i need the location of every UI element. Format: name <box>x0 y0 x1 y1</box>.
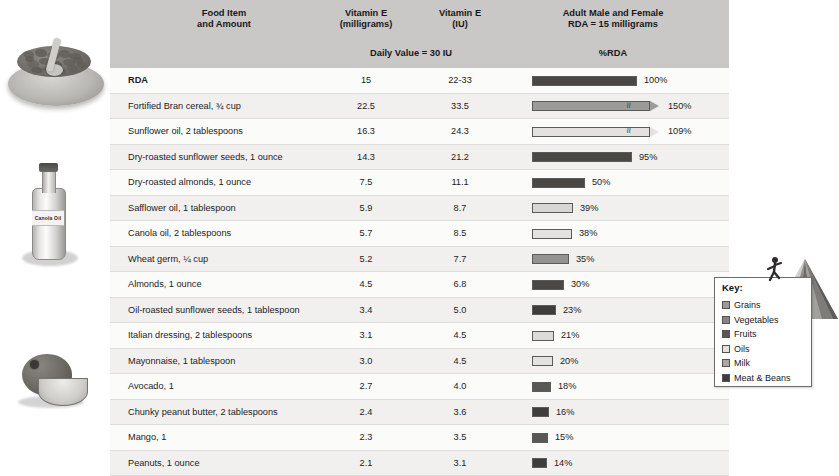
pct-rda-bar <box>532 331 554 341</box>
cell-pct-rda-bar: 35% <box>530 247 730 272</box>
column-header-milligrams: Vitamin E (milligrams) <box>318 8 414 30</box>
illustration-column: Canola Oil <box>0 0 110 441</box>
pct-rda-label-value: 16% <box>556 400 574 425</box>
table-row: Mango, 12.33.515% <box>110 425 729 451</box>
bar-break-marker: ≈ <box>621 127 636 136</box>
cell-vitamin-e-mg: 15 <box>318 68 414 93</box>
cell-vitamin-e-iu: 4.0 <box>416 374 504 399</box>
table-row: Safflower oil, 1 tablespoon5.98.739% <box>110 196 729 222</box>
cell-pct-rda-bar: 20% <box>530 349 730 374</box>
pct-rda-bar <box>532 356 553 366</box>
legend-swatch-icon <box>722 359 730 367</box>
oil-bottle-label: Canola Oil <box>32 210 64 226</box>
bar-arrow-head <box>650 101 659 111</box>
cell-vitamin-e-iu: 3.5 <box>416 425 504 450</box>
pct-rda-label-value: 30% <box>571 272 589 297</box>
legend-item-label: Fruits <box>734 329 757 339</box>
cereal-flake <box>67 65 78 72</box>
table-row: Fortified Bran cereal, ¾ cup22.533.5≈150… <box>110 94 729 120</box>
cell-pct-rda-bar: ≈150% <box>530 94 730 119</box>
cell-vitamin-e-iu: 4.5 <box>416 349 504 374</box>
cell-vitamin-e-iu: 11.1 <box>416 170 504 195</box>
cell-vitamin-e-iu: 22-33 <box>416 68 504 93</box>
cell-vitamin-e-iu: 33.5 <box>416 94 504 119</box>
cell-vitamin-e-mg: 2.7 <box>318 374 414 399</box>
legend-item-label: Oils <box>734 344 750 354</box>
pct-rda-bar <box>532 382 551 392</box>
legend-swatch-icon <box>722 301 730 309</box>
oil-bottle-icon: Canola Oil <box>26 162 72 272</box>
legend-title: Key: <box>722 282 743 293</box>
legend-item-label: Milk <box>734 358 750 368</box>
legend-swatch-icon <box>722 374 730 382</box>
legend-item: Milk <box>722 356 750 370</box>
table-row: Wheat germ, ¼ cup5.27.735% <box>110 247 729 273</box>
pct-rda-bar <box>532 178 585 188</box>
legend-item: Meat & Beans <box>722 371 791 385</box>
pct-rda-bar <box>532 76 637 86</box>
pct-rda-label-value: 38% <box>579 221 597 246</box>
cell-vitamin-e-iu: 7.7 <box>416 247 504 272</box>
pyramid-climber-icon <box>764 256 786 286</box>
legend-item: Grains <box>722 298 761 312</box>
cell-pct-rda-bar: 16% <box>530 400 730 425</box>
pct-rda-bar <box>532 203 573 213</box>
table-row: Mayonnaise, 1 tablespoon3.04.520% <box>110 349 729 375</box>
cell-vitamin-e-iu: 8.7 <box>416 196 504 221</box>
table-row: Peanuts, 1 ounce2.13.114% <box>110 451 729 476</box>
pct-rda-label-value: 100% <box>644 68 668 93</box>
cell-pct-rda-bar: 100% <box>530 68 730 93</box>
cell-vitamin-e-mg: 3.1 <box>318 323 414 348</box>
legend-item: Vegetables <box>722 313 779 327</box>
pct-rda-label-value: 95% <box>639 145 657 170</box>
column-header-rda: Adult Male and Female RDA = 15 milligram… <box>506 8 720 30</box>
cell-vitamin-e-mg: 14.3 <box>318 145 414 170</box>
cell-pct-rda-bar: 95% <box>530 145 730 170</box>
column-header-food: Food Item and Amount <box>128 8 320 30</box>
pct-rda-label-value: 50% <box>592 170 610 195</box>
cell-vitamin-e-mg: 4.5 <box>318 272 414 297</box>
cell-vitamin-e-mg: 5.2 <box>318 247 414 272</box>
cereal-flake <box>31 67 43 73</box>
cereal-flake <box>25 56 34 62</box>
cell-vitamin-e-mg: 2.1 <box>318 451 414 476</box>
cell-vitamin-e-mg: 16.3 <box>318 119 414 144</box>
pct-rda-label-value: 35% <box>576 247 594 272</box>
cell-pct-rda-bar: 14% <box>530 451 730 476</box>
bar-break-marker: ≈ <box>621 102 636 111</box>
cell-pct-rda-bar: 23% <box>530 298 730 323</box>
pct-rda-label-value: 18% <box>558 374 576 399</box>
pct-rda-label-value: 150% <box>668 94 692 119</box>
cell-pct-rda-bar: 18% <box>530 374 730 399</box>
vitamin-e-table: Food Item and Amount Vitamin E (milligra… <box>110 0 729 441</box>
cell-pct-rda-bar: 38% <box>530 221 730 246</box>
pct-rda-bar <box>532 458 547 468</box>
cell-vitamin-e-iu: 5.0 <box>416 298 504 323</box>
cell-pct-rda-bar: 21% <box>530 323 730 348</box>
pct-rda-label-value: 23% <box>563 298 581 323</box>
cell-vitamin-e-mg: 7.5 <box>318 170 414 195</box>
cell-vitamin-e-mg: 2.4 <box>318 400 414 425</box>
legend-swatch-icon <box>722 345 730 353</box>
cell-vitamin-e-mg: 22.5 <box>318 94 414 119</box>
legend-item: Oils <box>722 342 750 356</box>
pct-rda-bar <box>532 305 556 315</box>
cell-pct-rda-bar: 50% <box>530 170 730 195</box>
column-header-iu: Vitamin E (IU) <box>416 8 504 30</box>
cell-vitamin-e-iu: 24.3 <box>416 119 504 144</box>
table-row: Dry-roasted almonds, 1 ounce7.511.150% <box>110 170 729 196</box>
cell-pct-rda-bar: ≈109% <box>530 119 730 144</box>
cell-vitamin-e-mg: 5.7 <box>318 221 414 246</box>
cell-vitamin-e-iu: 8.5 <box>416 221 504 246</box>
table-row: Sunflower oil, 2 tablespoons16.324.3≈109… <box>110 119 729 145</box>
cereal-flake <box>35 49 47 57</box>
pct-rda-bar <box>532 229 572 239</box>
pct-rda-bar <box>532 254 569 264</box>
cell-vitamin-e-iu: 3.1 <box>416 451 504 476</box>
pct-rda-label-value: 20% <box>560 349 578 374</box>
table-body: RDA1522-33100%Fortified Bran cereal, ¾ c… <box>110 68 729 476</box>
legend-item-label: Meat & Beans <box>734 373 791 383</box>
table-row: Avocado, 12.74.018% <box>110 374 729 400</box>
cereal-flake <box>77 62 86 68</box>
pct-rda-bar <box>532 280 564 290</box>
